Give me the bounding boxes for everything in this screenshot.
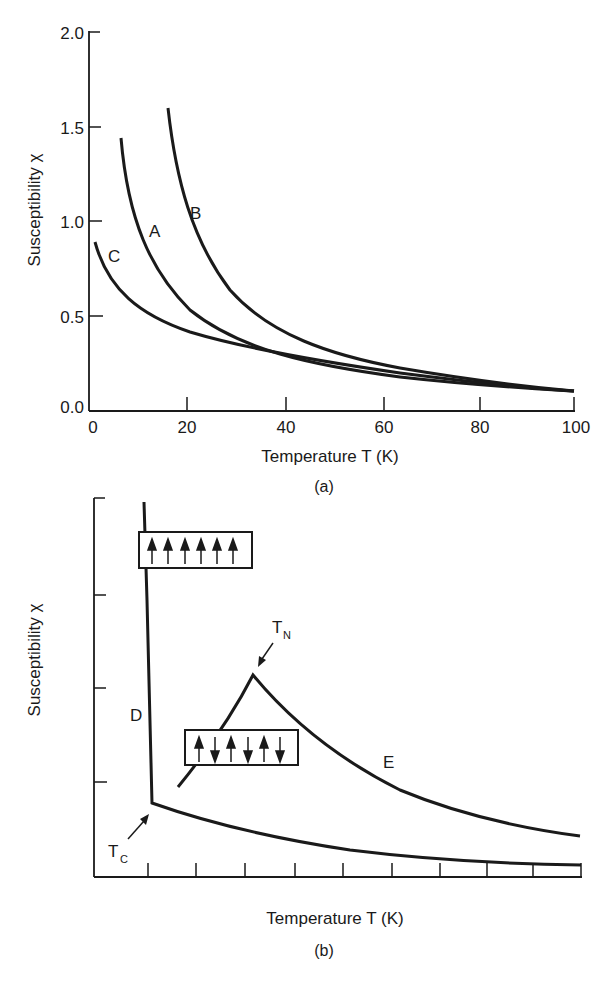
tn-annotation: T N xyxy=(258,618,291,667)
tc-arrow-icon xyxy=(128,821,144,839)
tn-subscript: N xyxy=(283,629,291,641)
tn-arrow-icon xyxy=(262,643,273,659)
panel-b-x-axis-label: Temperature T (K) xyxy=(266,909,403,928)
panel-a-caption: (a) xyxy=(314,478,334,495)
panel-a-x-ticks xyxy=(187,397,574,411)
x-tick-label: 40 xyxy=(277,418,296,437)
panel-a-y-ticks xyxy=(89,32,103,316)
y-tick-label: 2.0 xyxy=(60,24,84,43)
curve-b xyxy=(168,108,574,391)
panel-a-x-axis-label: Temperature T (K) xyxy=(261,447,398,466)
curve-label-e: E xyxy=(383,753,394,772)
x-tick-label: 80 xyxy=(471,418,490,437)
panel-b-caption: (b) xyxy=(314,942,334,959)
x-tick-label: 20 xyxy=(178,418,197,437)
y-tick-label: 1.0 xyxy=(60,213,84,232)
curve-label-a: A xyxy=(149,222,161,241)
curve-label-d: D xyxy=(130,706,142,725)
panel-b-y-ticks xyxy=(94,498,107,782)
curve-label-b: B xyxy=(190,204,201,223)
x-tick-label: 0 xyxy=(88,418,97,437)
figure: 2.0 1.5 1.0 0.5 0.0 0 20 40 60 80 100 Su… xyxy=(0,0,605,983)
y-tick-label: 1.5 xyxy=(60,119,84,138)
tc-label: T xyxy=(108,842,118,861)
tn-label: T xyxy=(272,618,282,637)
panel-a-y-axis-label: Susceptibility χ xyxy=(25,153,44,266)
tc-subscript: C xyxy=(120,853,128,865)
panel-b-x-ticks xyxy=(148,863,581,877)
curve-c xyxy=(95,242,574,391)
panel-b: Susceptibility χ Temperature T (K) (b) xyxy=(25,498,582,959)
panel-a: 2.0 1.5 1.0 0.5 0.0 0 20 40 60 80 100 Su… xyxy=(25,24,590,495)
curve-label-c: C xyxy=(108,247,120,266)
panel-b-y-axis-label: Susceptibility χ xyxy=(25,603,44,716)
y-tick-label: 0.5 xyxy=(60,308,84,327)
x-tick-label: 100 xyxy=(562,418,590,437)
tc-annotation: T C xyxy=(108,814,149,865)
x-tick-label: 60 xyxy=(375,418,394,437)
curve-a xyxy=(121,138,574,391)
y-tick-label: 0.0 xyxy=(60,398,84,417)
